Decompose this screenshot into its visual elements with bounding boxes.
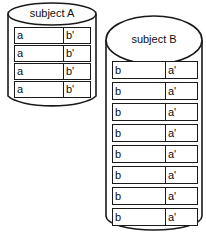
cell-right: a' (165, 61, 198, 79)
cell-right: a' (165, 187, 198, 205)
table-row[interactable]: b a' (112, 208, 198, 226)
cylinder-title-subject-a: subject A (6, 8, 98, 19)
record-list-subject-a: a b' a b' a b' a b' (14, 27, 91, 99)
record-list-subject-b: b a' b a' b a' b a' b a' b a' (112, 61, 198, 229)
table-row[interactable]: b a' (112, 124, 198, 142)
cylinder-title-subject-b: subject B (104, 34, 204, 45)
table-row[interactable]: b a' (112, 82, 198, 100)
cell-right: b' (63, 81, 91, 98)
cell-left: a (14, 81, 64, 98)
cell-left: b (112, 166, 166, 184)
table-row[interactable]: b a' (112, 103, 198, 121)
table-row[interactable]: a b' (14, 45, 91, 62)
cell-right: b' (63, 45, 91, 62)
table-row[interactable]: a b' (14, 27, 91, 44)
cell-left: a (14, 63, 64, 80)
table-row[interactable]: b a' (112, 166, 198, 184)
table-row[interactable]: b a' (112, 187, 198, 205)
cell-right: a' (165, 82, 198, 100)
cell-left: a (14, 45, 64, 62)
diagram-canvas: subject A a b' a b' a b' a b' (0, 0, 206, 232)
cell-left: b (112, 187, 166, 205)
table-row[interactable]: b a' (112, 61, 198, 79)
cell-right: b' (63, 27, 91, 44)
table-row[interactable]: a b' (14, 63, 91, 80)
database-cylinder-subject-b[interactable]: subject B b a' b a' b a' b a' b a' (104, 8, 204, 232)
cell-right: a' (165, 145, 198, 163)
database-cylinder-subject-a[interactable]: subject A a b' a b' a b' a b' (6, 2, 98, 112)
cell-left: a (14, 27, 64, 44)
cell-left: b (112, 82, 166, 100)
cell-right: a' (165, 103, 198, 121)
cell-left: b (112, 61, 166, 79)
cell-left: b (112, 124, 166, 142)
cell-right: b' (63, 63, 91, 80)
cell-right: a' (165, 124, 198, 142)
table-row[interactable]: a b' (14, 81, 91, 98)
cell-left: b (112, 145, 166, 163)
cell-left: b (112, 208, 166, 226)
cell-right: a' (165, 208, 198, 226)
cell-right: a' (165, 166, 198, 184)
cell-left: b (112, 103, 166, 121)
table-row[interactable]: b a' (112, 145, 198, 163)
